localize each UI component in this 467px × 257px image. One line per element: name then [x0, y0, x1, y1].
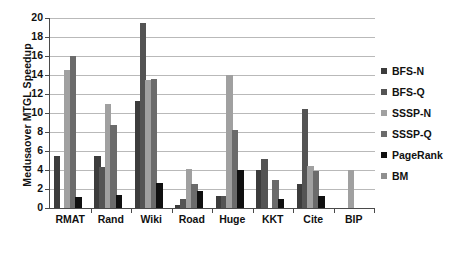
- bar: [278, 199, 285, 208]
- bar: [318, 196, 325, 208]
- x-tick-label: Cite: [293, 213, 334, 225]
- legend-item: SSSP-Q: [381, 123, 467, 144]
- x-tick-label: Rand: [91, 213, 132, 225]
- x-tick-label: Road: [172, 213, 213, 225]
- legend-item: BFS-Q: [381, 81, 467, 102]
- y-tick-label: 6: [18, 144, 43, 156]
- y-tick-label: 2: [18, 182, 43, 194]
- x-tick-label: RMAT: [50, 213, 91, 225]
- x-tick-mark: [374, 208, 375, 213]
- bar: [54, 156, 61, 208]
- legend-label: BFS-N: [392, 65, 424, 77]
- bar: [197, 191, 204, 208]
- y-tick-label: 0: [18, 201, 43, 213]
- y-tick-label: 20: [18, 11, 43, 23]
- y-tick-label: 18: [18, 30, 43, 42]
- bar-group: [334, 18, 375, 208]
- legend-label: SSSP-Q: [392, 128, 432, 140]
- legend-swatch-icon: [381, 89, 387, 95]
- x-tick-label: Wiki: [131, 213, 172, 225]
- bars-layer: [50, 18, 374, 208]
- y-tick-label: 12: [18, 87, 43, 99]
- y-tick-label: 10: [18, 106, 43, 118]
- legend-swatch-icon: [381, 110, 387, 116]
- y-tick-label: 16: [18, 49, 43, 61]
- bar: [237, 170, 244, 208]
- legend-swatch-icon: [381, 152, 387, 158]
- legend-label: PageRank: [392, 149, 443, 161]
- legend-label: BM: [392, 170, 408, 182]
- legend: BFS-NBFS-QSSSP-NSSSP-QPageRankBM: [381, 60, 467, 186]
- bar: [116, 195, 123, 208]
- legend-label: SSSP-N: [392, 107, 431, 119]
- bar-group: [50, 18, 91, 208]
- legend-swatch-icon: [381, 173, 387, 179]
- x-tick-label: Huge: [212, 213, 253, 225]
- legend-swatch-icon: [381, 68, 387, 74]
- bar: [348, 170, 355, 208]
- bar-group: [131, 18, 172, 208]
- bar-group: [212, 18, 253, 208]
- legend-item: SSSP-N: [381, 102, 467, 123]
- bar-group: [172, 18, 213, 208]
- bar-chart: Medusaover MTGL Speedup 0246810121416182…: [0, 0, 467, 257]
- legend-item: BM: [381, 165, 467, 186]
- bar: [70, 56, 77, 208]
- bar-group: [293, 18, 334, 208]
- x-tick-label: KKT: [253, 213, 294, 225]
- y-tick-label: 4: [18, 163, 43, 175]
- legend-item: BFS-N: [381, 60, 467, 81]
- legend-item: PageRank: [381, 144, 467, 165]
- bar: [75, 197, 82, 208]
- bar: [156, 183, 163, 208]
- bar-group: [253, 18, 294, 208]
- y-tick-label: 14: [18, 68, 43, 80]
- bar: [261, 159, 268, 208]
- legend-swatch-icon: [381, 131, 387, 137]
- legend-label: BFS-Q: [392, 86, 425, 98]
- x-tick-label: BIP: [334, 213, 375, 225]
- y-tick-label: 8: [18, 125, 43, 137]
- bar-group: [91, 18, 132, 208]
